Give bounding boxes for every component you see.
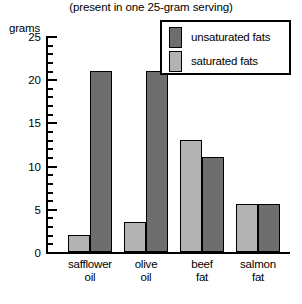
- y-tick-minor: [48, 105, 53, 107]
- y-tick-minor: [48, 71, 53, 73]
- bar-saturated: [180, 140, 202, 252]
- y-tick-major: [48, 122, 57, 124]
- y-tick-major: [48, 79, 57, 81]
- y-tick-minor: [48, 157, 53, 159]
- y-tick-minor: [48, 140, 53, 142]
- y-tick-minor: [48, 96, 53, 98]
- y-tick-major: [48, 209, 57, 211]
- chart-subtitle: (present in one 25-gram serving): [0, 1, 302, 13]
- y-tick-minor: [48, 200, 53, 202]
- y-tick-minor: [48, 217, 53, 219]
- y-tick-minor: [48, 174, 53, 176]
- y-tick-minor: [48, 131, 53, 133]
- y-tick-minor: [48, 148, 53, 150]
- y-tick-minor: [48, 53, 53, 55]
- bar-saturated: [68, 235, 90, 252]
- legend-swatch: [169, 51, 182, 72]
- y-tick-label: 0: [35, 247, 41, 259]
- bar-unsaturated: [258, 204, 280, 252]
- y-tick-major: [48, 166, 57, 168]
- bar-saturated: [124, 222, 146, 252]
- bar-saturated: [236, 204, 258, 252]
- y-tick-minor: [48, 192, 53, 194]
- y-tick-label: 10: [28, 161, 41, 173]
- y-tick-label: 25: [28, 31, 41, 43]
- y-tick-minor: [48, 45, 53, 47]
- y-tick-label: 15: [28, 117, 41, 129]
- bar-group: saffloweroil: [68, 38, 112, 252]
- y-tick-minor: [48, 62, 53, 64]
- y-tick-major: [48, 252, 57, 254]
- y-tick-major: [48, 36, 57, 38]
- y-tick-minor: [48, 226, 53, 228]
- y-tick-minor: [48, 114, 53, 116]
- chart-legend: unsaturated fatssaturated fats: [160, 20, 291, 75]
- bar-unsaturated: [202, 157, 224, 252]
- fat-content-bar-chart: (present in one 25-gram serving) grams 0…: [0, 0, 302, 304]
- x-axis-line: [46, 252, 290, 254]
- legend-swatch: [169, 27, 182, 48]
- legend-label: saturated fats: [191, 55, 258, 67]
- bar-unsaturated: [90, 71, 112, 252]
- y-tick-label: 20: [28, 74, 41, 86]
- y-tick-minor: [48, 183, 53, 185]
- x-axis-category-label: salmonfat: [213, 258, 302, 284]
- y-tick-minor: [48, 88, 53, 90]
- y-tick-label: 5: [35, 204, 41, 216]
- y-axis-line: [46, 36, 48, 254]
- y-tick-minor: [48, 243, 53, 245]
- bar-unsaturated: [146, 71, 168, 252]
- legend-label: unsaturated fats: [191, 31, 270, 43]
- y-tick-minor: [48, 235, 53, 237]
